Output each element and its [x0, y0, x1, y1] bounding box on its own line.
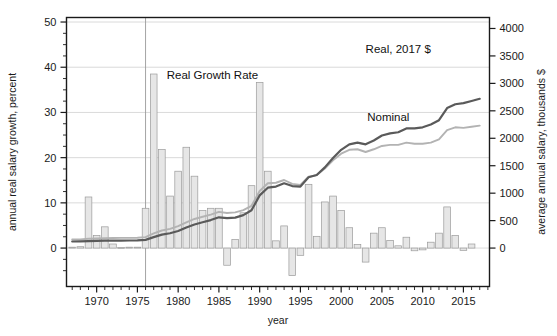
- y-tick-label-right: 1500: [500, 160, 524, 172]
- bar: [436, 233, 443, 248]
- bar: [248, 186, 255, 248]
- figure-background: [0, 0, 557, 336]
- bar: [370, 233, 377, 248]
- bar: [77, 247, 84, 248]
- bar: [281, 226, 288, 248]
- bar: [460, 248, 467, 250]
- x-axis-title: year: [268, 314, 289, 326]
- bar: [419, 248, 426, 250]
- bar: [118, 248, 125, 249]
- bar: [452, 235, 459, 248]
- x-tick-label: 1975: [125, 295, 149, 307]
- bar: [150, 74, 157, 248]
- y-axis-title-right: average annual salary, thousands $: [535, 69, 547, 235]
- bar: [444, 207, 451, 248]
- y-tick-label-right: 3000: [500, 77, 524, 89]
- x-tick-label: 2000: [329, 295, 353, 307]
- bar: [126, 247, 133, 248]
- bar: [297, 248, 304, 255]
- bar: [468, 244, 475, 248]
- y-tick-label-right: 3500: [500, 50, 524, 62]
- x-tick-label: 1990: [247, 295, 271, 307]
- bar: [330, 196, 337, 248]
- bar: [134, 247, 141, 248]
- bar: [403, 237, 410, 248]
- bar: [110, 244, 117, 248]
- bar: [305, 184, 312, 248]
- y-tick-label-left: 30: [44, 106, 56, 118]
- y-tick-label-left: 40: [44, 61, 56, 73]
- x-tick-label: 1995: [288, 295, 312, 307]
- bar: [322, 202, 329, 248]
- x-tick-label: 2015: [451, 295, 475, 307]
- bar: [216, 208, 223, 248]
- bar: [387, 240, 394, 248]
- bar: [395, 246, 402, 248]
- bar: [69, 247, 76, 248]
- x-tick-label: 1980: [166, 295, 190, 307]
- bar: [142, 208, 149, 248]
- bar: [354, 244, 361, 248]
- bar: [379, 228, 386, 248]
- series-annotation: Nominal: [367, 111, 409, 123]
- bar: [240, 213, 247, 248]
- bar: [338, 211, 345, 249]
- bar: [256, 83, 263, 248]
- bar: [175, 171, 182, 248]
- y-tick-label-left: 10: [44, 197, 56, 209]
- y-tick-label-right: 0: [500, 242, 506, 254]
- bar: [167, 196, 174, 248]
- x-tick-label: 1970: [84, 295, 108, 307]
- y-tick-label-right: 2000: [500, 132, 524, 144]
- bar: [191, 176, 198, 248]
- bar: [427, 242, 434, 248]
- x-tick-label: 2005: [370, 295, 394, 307]
- y-axis-title-left: annual real salary growth, percent: [6, 73, 18, 231]
- bar: [362, 248, 369, 262]
- y-tick-label-right: 1000: [500, 187, 524, 199]
- bar: [313, 236, 320, 248]
- y-tick-label-left: 20: [44, 152, 56, 164]
- y-tick-label-right: 500: [500, 215, 518, 227]
- y-tick-label-left: 50: [44, 16, 56, 28]
- salary-growth-chart: 1970197519801985199019952000200520102015…: [0, 0, 557, 336]
- series-annotation: Real Growth Rate: [167, 69, 258, 81]
- bar: [273, 241, 280, 248]
- chart-figure: 1970197519801985199019952000200520102015…: [0, 0, 557, 336]
- bar: [289, 248, 296, 276]
- y-tick-label-left: 0: [50, 242, 56, 254]
- bar: [232, 239, 239, 248]
- x-tick-label: 1985: [207, 295, 231, 307]
- bar: [411, 248, 418, 251]
- y-tick-label-right: 4000: [500, 22, 524, 34]
- bar: [224, 248, 231, 265]
- bar: [346, 228, 353, 248]
- x-tick-label: 2010: [410, 295, 434, 307]
- bar: [183, 147, 190, 248]
- series-annotation: Real, 2017 $: [366, 43, 432, 55]
- y-tick-label-right: 2500: [500, 105, 524, 117]
